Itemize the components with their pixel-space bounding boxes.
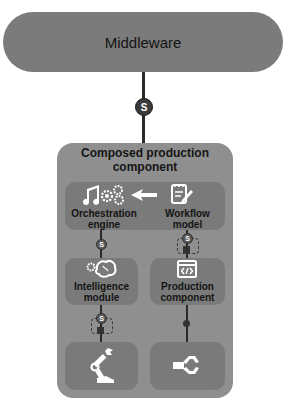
service-badge-workflow-prod: S xyxy=(182,233,193,244)
port-square xyxy=(97,327,104,334)
brain-gear-icon xyxy=(86,259,118,279)
orchestration-engine-label: Orchestration engine xyxy=(66,208,142,230)
service-badge-letter: S xyxy=(99,315,104,322)
middleware-node: Middleware xyxy=(3,12,283,72)
orchestration-label-line2: engine xyxy=(66,219,142,230)
orchestration-label-line1: Orchestration xyxy=(66,208,142,219)
intelligence-label-line1: Intelligence xyxy=(65,281,138,292)
composed-title-line1: Composed production xyxy=(57,146,233,160)
notepad-pen-icon xyxy=(170,183,194,205)
production-label-line2: component xyxy=(150,292,225,303)
service-badge-letter: S xyxy=(185,235,190,242)
port-square xyxy=(183,246,190,253)
service-badge-top: S xyxy=(135,98,153,116)
intelligence-module-label: Intelligence module xyxy=(65,281,138,303)
composed-title-line2: component xyxy=(57,160,233,174)
production-component-label: Production component xyxy=(150,281,225,303)
code-window-icon xyxy=(177,260,197,278)
music-gears-icon xyxy=(80,184,130,206)
gripper-icon xyxy=(172,353,202,377)
intelligence-label-line2: module xyxy=(65,292,138,303)
workflow-label-line2: model xyxy=(150,219,225,230)
workflow-model-label: Workflow model xyxy=(150,208,225,230)
port-dot xyxy=(183,320,190,327)
composed-title: Composed production component xyxy=(57,146,233,174)
service-badge-letter: S xyxy=(99,241,104,248)
service-badge-intel-arm: S xyxy=(96,313,107,324)
middleware-label: Middleware xyxy=(105,34,182,51)
service-badge-letter: S xyxy=(141,102,148,113)
arrow-left-icon xyxy=(131,188,157,202)
production-label-line1: Production xyxy=(150,281,225,292)
workflow-label-line1: Workflow xyxy=(150,208,225,219)
service-badge-orch-intel: S xyxy=(96,239,107,250)
robot-arm-icon xyxy=(88,346,118,386)
